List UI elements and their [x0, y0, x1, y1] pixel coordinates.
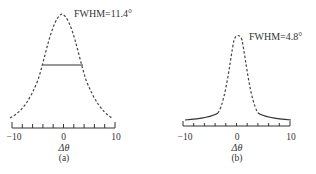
tick-label-left: −10	[178, 132, 193, 142]
panel-caption: (a)	[59, 153, 70, 164]
panel-b: −10 0 10 Δθ (b) FWHM=4.8°	[178, 31, 303, 164]
tick-label-left: −10	[7, 132, 22, 142]
tick-label-right: 10	[111, 132, 121, 142]
x-axis-label: Δθ	[231, 142, 243, 153]
x-ticks	[183, 121, 290, 126]
figure: −10 0 10 Δθ (a) FWHM=11.4° −10 0 10 Δθ (…	[0, 0, 316, 174]
x-ticks	[12, 122, 115, 128]
tick-label-zero: 0	[235, 132, 240, 142]
lorentzian-peak	[218, 36, 258, 114]
panel-caption: (b)	[231, 153, 242, 164]
gaussian-curve	[10, 14, 112, 118]
tail-left	[185, 113, 218, 120]
panel-a: −10 0 10 Δθ (a) FWHM=11.4°	[7, 8, 132, 164]
x-axis-label: Δθ	[58, 142, 70, 153]
tail-right	[258, 113, 291, 120]
fwhm-annotation: FWHM=4.8°	[249, 31, 302, 42]
tick-label-right: 10	[286, 132, 296, 142]
fwhm-annotation: FWHM=11.4°	[74, 8, 132, 19]
tick-label-zero: 0	[61, 132, 66, 142]
